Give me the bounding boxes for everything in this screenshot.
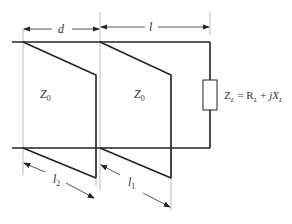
label-z0-section1: Z0 (134, 87, 145, 103)
stub2-bottom (23, 148, 96, 178)
stubs (23, 42, 171, 178)
l2-arrow-left (24, 163, 45, 172)
label-l2: l2 (53, 172, 60, 188)
l1-arrow-left (101, 165, 120, 175)
double-stub-diagram: d l l2 l1 Z0 Z0 ZL = RL + jXL (0, 0, 292, 224)
dimension-arrows (24, 27, 209, 207)
load-resistor (203, 80, 217, 110)
label-l: l (149, 20, 153, 34)
l2-arrow-right (66, 183, 94, 198)
l1-arrow-right (143, 193, 170, 207)
label-l1: l1 (128, 175, 135, 191)
load-impedance-label: ZL = RL + jXL (224, 89, 283, 104)
stub1-bottom (100, 148, 171, 178)
label-d: d (58, 22, 65, 36)
label-z0-section2: Z0 (40, 87, 51, 103)
stub2-top (23, 42, 96, 148)
